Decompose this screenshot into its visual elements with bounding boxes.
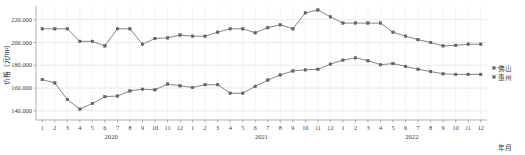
data-point-marker [442, 45, 445, 48]
x-tick-label: 12 [327, 124, 333, 131]
data-point-marker [116, 28, 119, 31]
data-point-marker [66, 98, 69, 101]
y-tick-label: 140.000 [11, 107, 32, 114]
y-tick-label: 160.000 [11, 84, 32, 91]
chart-legend: 佛山惠州 [493, 64, 512, 81]
x-tick-label: 10 [453, 124, 459, 131]
x-tick-label: 1 [341, 124, 344, 131]
data-point-marker [104, 95, 107, 98]
data-point-marker [454, 44, 457, 47]
x-tick-label: 2 [354, 124, 357, 131]
data-point-marker [216, 83, 219, 86]
data-point-marker [279, 74, 282, 77]
data-point-marker [66, 28, 69, 31]
data-point-marker [467, 43, 470, 46]
x-tick-label: 6 [254, 124, 257, 131]
data-point-marker [241, 92, 244, 95]
data-point-marker [317, 9, 320, 12]
data-point-marker [279, 24, 282, 27]
data-point-marker [41, 78, 44, 81]
legend-label-1[interactable]: 佛山 [498, 64, 512, 73]
data-point-marker [129, 28, 132, 31]
x-group-label: 2020 [105, 133, 119, 140]
data-point-marker [367, 59, 370, 62]
y-axis-title: 价格（元/m²） [2, 41, 11, 86]
data-point-marker [166, 83, 169, 86]
y-tick-label: 220.000 [11, 16, 32, 23]
x-tick-label: 12 [177, 124, 183, 131]
data-point-marker [266, 26, 269, 29]
x-tick-label: 7 [417, 124, 420, 131]
data-point-marker [417, 68, 420, 71]
data-point-marker [104, 45, 107, 48]
data-point-marker [404, 65, 407, 68]
data-point-marker [317, 68, 320, 71]
x-tick-label: 4 [78, 124, 81, 131]
data-point-marker [53, 28, 56, 31]
legend-marker-1 [493, 67, 496, 70]
x-tick-label: 7 [266, 124, 269, 131]
data-point-marker [41, 28, 44, 31]
data-point-marker [404, 35, 407, 38]
data-point-marker [191, 86, 194, 89]
data-point-marker [229, 28, 232, 31]
x-tick-label: 10 [302, 124, 308, 131]
data-point-marker [53, 82, 56, 85]
data-point-marker [266, 79, 269, 82]
x-tick-label: 9 [442, 124, 445, 131]
x-tick-label: 1 [191, 124, 194, 131]
x-group-label: 2021 [255, 133, 268, 140]
y-tick-label: 180.000 [11, 61, 32, 68]
data-point-marker [154, 37, 157, 40]
data-point-marker [329, 63, 332, 66]
series-line-1 [42, 10, 480, 46]
y-tick-label: 200.000 [11, 39, 32, 46]
chart-canvas: 1234567891011121234567891011121234567891… [0, 0, 525, 155]
data-point-marker [254, 85, 257, 88]
data-point-marker [304, 12, 307, 15]
axes-layer [36, 6, 487, 120]
data-point-marker [379, 63, 382, 66]
data-point-marker [354, 22, 357, 25]
data-point-marker [179, 34, 182, 37]
data-point-marker [467, 73, 470, 76]
data-point-marker [367, 22, 370, 25]
data-point-marker [479, 73, 482, 76]
data-point-marker [216, 31, 219, 34]
x-tick-label: 6 [103, 124, 106, 131]
data-point-marker [392, 31, 395, 34]
data-point-marker [429, 70, 432, 73]
data-point-marker [392, 62, 395, 65]
data-point-marker [204, 35, 207, 38]
data-point-marker [429, 41, 432, 44]
data-point-marker [454, 73, 457, 76]
data-point-marker [479, 43, 482, 46]
x-tick-label: 2 [53, 124, 56, 131]
y-axis-tick-labels: 140.000160.000180.000200.000220.000 [11, 16, 36, 114]
x-tick-label: 2 [204, 124, 207, 131]
data-point-marker [241, 28, 244, 31]
data-point-marker [417, 38, 420, 41]
data-point-marker [179, 85, 182, 88]
x-tick-label: 7 [116, 124, 119, 131]
x-tick-label: 4 [379, 124, 382, 131]
x-tick-label: 9 [141, 124, 144, 131]
data-point-marker [329, 16, 332, 19]
series-layer [41, 9, 482, 111]
x-tick-label: 8 [429, 124, 432, 131]
grid-layer [36, 6, 487, 120]
x-axis-tick-labels: 1234567891011121234567891011121234567891… [41, 120, 484, 131]
data-point-marker [379, 22, 382, 25]
data-point-marker [342, 59, 345, 62]
x-tick-label: 3 [216, 124, 219, 131]
data-point-marker [191, 35, 194, 38]
data-point-marker [79, 108, 82, 111]
x-axis-group-labels: 202020212022 [105, 133, 419, 140]
x-tick-label: 5 [91, 124, 94, 131]
data-point-marker [91, 102, 94, 105]
legend-label-2[interactable]: 惠州 [498, 73, 512, 81]
x-group-label: 2022 [405, 133, 418, 140]
data-point-marker [254, 31, 257, 34]
data-point-marker [79, 40, 82, 43]
x-tick-label: 8 [279, 124, 282, 131]
